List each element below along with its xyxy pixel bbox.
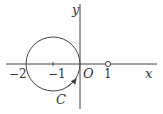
tick-label-neg1: −1 xyxy=(48,67,66,81)
diagram-canvas: y x O C −2 −1 1 xyxy=(0,0,163,114)
open-point xyxy=(106,62,111,67)
y-axis-label: y xyxy=(71,2,80,17)
tick-label-1: 1 xyxy=(104,67,112,81)
curve-label: C xyxy=(56,92,66,107)
x-axis-label: x xyxy=(145,66,153,81)
origin-label: O xyxy=(83,66,94,81)
tick-label-neg2: −2 xyxy=(9,67,27,81)
